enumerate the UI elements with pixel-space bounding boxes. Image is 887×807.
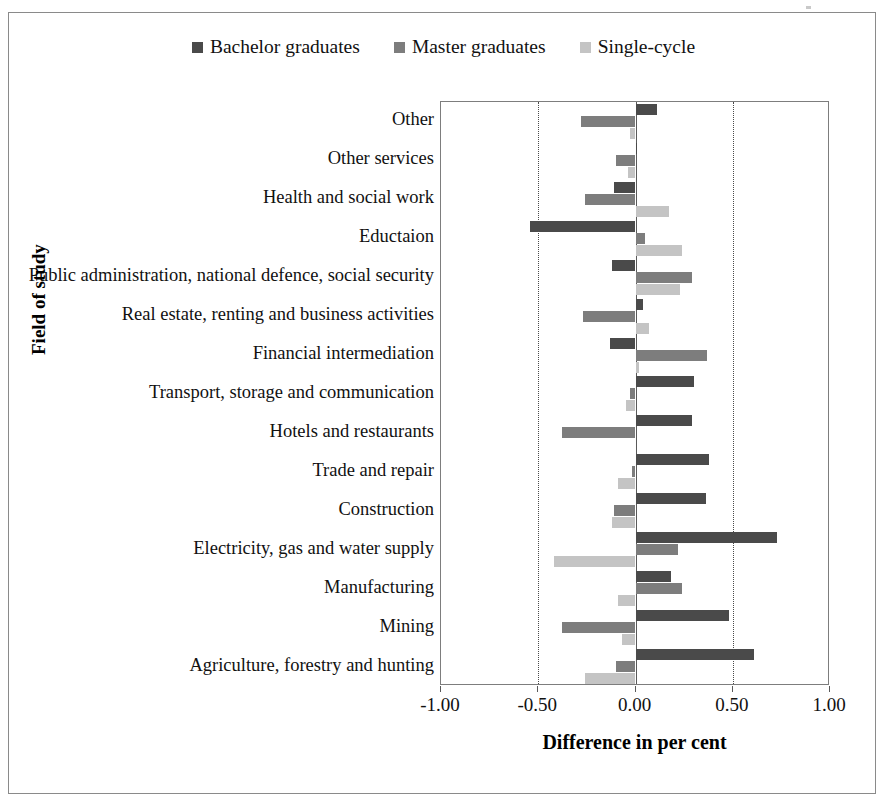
x-axis-tick-label: -1.00 — [420, 694, 460, 716]
y-axis-tick-label: Mining — [14, 617, 434, 636]
bar — [614, 182, 635, 193]
y-axis-tick-label: Agriculture, forestry and hunting — [14, 656, 434, 675]
bar — [616, 155, 635, 166]
bar — [612, 517, 635, 528]
y-axis-tick-label: Construction — [14, 500, 434, 519]
plot-wrapper — [440, 101, 829, 685]
legend-swatch-icon — [394, 42, 405, 53]
x-axis-ticks: -1.00-0.500.000.501.00 — [440, 686, 829, 720]
chart-page: Bachelor graduatesMaster graduatesSingle… — [0, 0, 887, 807]
bar-group — [441, 336, 828, 375]
y-axis-tick-label: Eductaion — [14, 227, 434, 246]
bar — [628, 167, 636, 178]
bar — [636, 284, 681, 295]
legend-item-label: Bachelor graduates — [210, 36, 360, 58]
bar — [612, 260, 635, 271]
x-axis-tick-mark — [635, 686, 636, 692]
x-axis-tick-label: 1.00 — [812, 694, 845, 716]
plot-area — [440, 101, 829, 685]
bar — [632, 466, 636, 477]
bar — [636, 649, 755, 660]
bar — [562, 622, 636, 633]
bar — [636, 532, 778, 543]
bar — [562, 427, 636, 438]
bar-group — [441, 491, 828, 530]
bar — [630, 388, 636, 399]
bar-group — [441, 375, 828, 414]
bar — [636, 415, 692, 426]
bar — [585, 673, 636, 684]
y-axis-tick-label: Other services — [14, 149, 434, 168]
bar-group — [441, 219, 828, 258]
bar — [636, 544, 679, 555]
y-axis-tick-label: Electricity, gas and water supply — [14, 539, 434, 558]
bar — [618, 595, 636, 606]
legend-swatch-icon — [192, 42, 203, 53]
chart-legend: Bachelor graduatesMaster graduatesSingle… — [0, 36, 887, 58]
x-axis-tick-mark — [732, 686, 733, 692]
bar-group — [441, 180, 828, 219]
x-axis-tick-mark — [537, 686, 538, 692]
bar — [626, 400, 636, 411]
bar — [636, 454, 710, 465]
y-axis-tick-label: Financial intermediation — [14, 344, 434, 363]
y-axis-tick-label: Health and social work — [14, 188, 434, 207]
bar — [636, 376, 694, 387]
bar — [636, 323, 650, 334]
y-axis-category-labels: OtherOther servicesHealth and social wor… — [8, 101, 434, 685]
bar — [636, 206, 669, 217]
bar — [636, 571, 671, 582]
bar-group — [441, 608, 828, 647]
y-axis-tick-label: Transport, storage and communication — [14, 383, 434, 402]
x-axis-tick-label: 0.00 — [618, 694, 651, 716]
bar — [616, 661, 635, 672]
bar — [636, 104, 657, 115]
bar — [610, 338, 635, 349]
legend-swatch-icon — [580, 42, 591, 53]
x-axis-tick-label: 0.50 — [715, 694, 748, 716]
y-axis-title: Field of study — [28, 244, 50, 355]
bar-group — [441, 569, 828, 608]
bar — [636, 362, 640, 373]
bar-group — [441, 647, 828, 685]
x-axis-tick-label: -0.50 — [517, 694, 557, 716]
bar — [636, 493, 706, 504]
scan-artifact — [806, 6, 811, 9]
bar — [636, 143, 638, 154]
bar — [636, 233, 646, 244]
bar — [636, 610, 729, 621]
bar — [581, 116, 635, 127]
bar — [530, 221, 635, 232]
x-axis-tick-mark — [440, 686, 441, 692]
legend-item-label: Master graduates — [412, 36, 546, 58]
bar-group — [441, 452, 828, 491]
y-axis-tick-label: Hotels and restaurants — [14, 422, 434, 441]
bar-group — [441, 530, 828, 569]
y-axis-tick-label: Other — [14, 110, 434, 129]
bar-group — [441, 258, 828, 297]
bar — [585, 194, 636, 205]
y-axis-tick-label: Manufacturing — [14, 578, 434, 597]
bar — [614, 505, 635, 516]
bar — [636, 272, 692, 283]
bar — [554, 556, 636, 567]
bar-group — [441, 102, 828, 141]
bar — [636, 350, 708, 361]
legend-item: Single-cycle — [580, 36, 695, 58]
legend-item-label: Single-cycle — [598, 36, 695, 58]
bar — [636, 299, 644, 310]
y-axis-tick-label: Public administration, national defence,… — [14, 266, 434, 285]
y-axis-tick-label: Real estate, renting and business activi… — [14, 305, 434, 324]
legend-item: Master graduates — [394, 36, 546, 58]
x-axis-tick-mark — [829, 686, 830, 692]
bar — [583, 311, 636, 322]
bar-group — [441, 141, 828, 180]
bar — [636, 245, 683, 256]
bar — [630, 128, 636, 139]
bar-group — [441, 297, 828, 336]
legend-item: Bachelor graduates — [192, 36, 360, 58]
bar — [636, 583, 683, 594]
y-axis-tick-label: Trade and repair — [14, 461, 434, 480]
bar — [622, 634, 636, 645]
x-axis-title: Difference in per cent — [440, 731, 829, 754]
